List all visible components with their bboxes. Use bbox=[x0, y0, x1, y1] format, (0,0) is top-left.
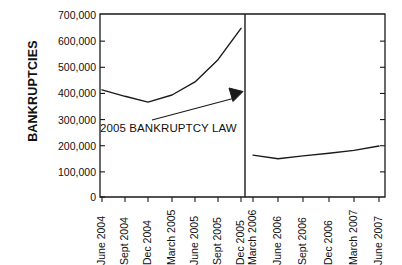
x-tick-label: June 2004 bbox=[95, 216, 107, 265]
x-tick-label: June 2005 bbox=[188, 216, 200, 265]
axis-frame bbox=[100, 14, 385, 197]
x-tick-label: Dec 2005 bbox=[234, 220, 246, 265]
data-line-after-law bbox=[253, 146, 379, 159]
data-line-before-law bbox=[102, 28, 241, 102]
x-tick-label: Sept 2004 bbox=[118, 217, 130, 265]
chart-figure: BANKRUPTCIES 0 100,000 200,000 300,000 4… bbox=[0, 0, 402, 265]
x-tick-label: March 2006 bbox=[246, 210, 258, 265]
x-tick-label: June 2007 bbox=[372, 216, 384, 265]
x-tick-label: Sept 2006 bbox=[296, 217, 308, 265]
annotation-arrow bbox=[152, 88, 243, 120]
x-tick-label: March 2007 bbox=[347, 210, 359, 265]
y-axis-ticks-right bbox=[380, 41, 385, 172]
x-tick-label: June 2006 bbox=[271, 216, 283, 265]
x-tick-label: March 2005 bbox=[165, 210, 177, 265]
x-tick-label: Dec 2004 bbox=[141, 220, 153, 265]
y-axis-ticks bbox=[100, 41, 105, 197]
x-tick-label: Dec 2006 bbox=[322, 220, 334, 265]
x-tick-label: Sept 2005 bbox=[211, 217, 223, 265]
x-axis-tick-labels: June 2004 Sept 2004 Dec 2004 March 2005 … bbox=[0, 200, 402, 265]
annotation-label: 2005 BANKRUPTCY LAW bbox=[100, 122, 237, 134]
